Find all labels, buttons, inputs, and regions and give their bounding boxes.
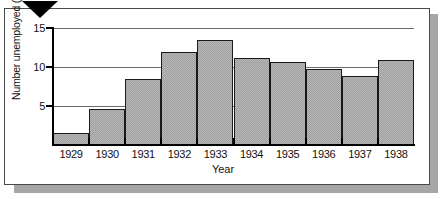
x-tick-label-1933: 1933 [197,148,233,160]
x-tick-label-1930: 1930 [89,148,125,160]
bar-1932 [161,52,197,145]
y-tick-label-15: 15 [19,22,45,34]
bar-1934 [234,58,270,145]
x-tick-mark-1931 [124,138,126,146]
bar-chart-plot-area: 15 10 5 Number unemployed (millions) Yea… [0,0,446,199]
x-tick-mark-1935 [269,138,271,146]
y-axis-title: Number unemployed (millions) [10,0,22,100]
x-tick-label-1931: 1931 [125,148,161,160]
x-tick-mark-1933 [196,138,198,146]
bar-1937 [342,76,378,145]
x-tick-mark-1932 [160,138,162,146]
x-axis-title: Year [0,163,446,175]
y-tick-label-10: 10 [19,61,45,73]
x-tick-label-1935: 1935 [270,148,306,160]
figure-root: 15 10 5 Number unemployed (millions) Yea… [0,0,446,199]
x-tick-label-1936: 1936 [306,148,342,160]
bar-1930 [89,109,125,145]
bar-1931 [125,79,161,145]
x-tick-label-1932: 1932 [161,148,197,160]
y-tick-mark-10 [46,66,53,68]
x-tick-mark-1938 [377,138,379,146]
x-tick-mark-1936 [305,138,307,146]
x-tick-label-1937: 1937 [342,148,378,160]
y-axis-line [52,27,54,146]
x-tick-label-1934: 1934 [234,148,270,160]
x-tick-label-1929: 1929 [53,148,89,160]
y-tick-label-5: 5 [19,100,45,112]
bar-1933 [197,40,233,145]
x-tick-mark-1934 [233,138,235,146]
x-tick-label-1938: 1938 [378,148,414,160]
bar-1936 [306,69,342,145]
x-tick-mark-1937 [341,138,343,146]
y-tick-mark-15 [46,27,53,29]
x-tick-mark-1930 [88,138,90,146]
bar-1938 [378,60,414,145]
y-tick-mark-5 [46,105,53,107]
bar-1935 [270,62,306,145]
